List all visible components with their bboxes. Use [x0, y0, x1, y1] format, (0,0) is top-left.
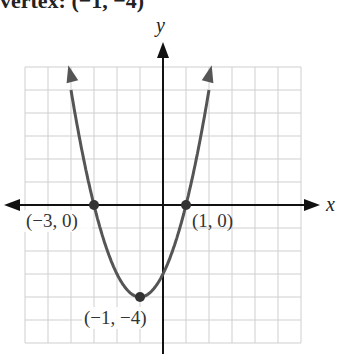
- label-right-intercept: (1, 0): [192, 210, 233, 232]
- point-vertex: [135, 292, 145, 302]
- y-axis: y: [154, 14, 169, 354]
- y-axis-label: y: [154, 14, 165, 37]
- x-axis-right-arrow-icon: [304, 199, 320, 211]
- x-axis-label: x: [325, 193, 335, 215]
- label-vertex: (−1, −4): [84, 307, 147, 329]
- x-axis-left-arrow-icon: [4, 199, 20, 211]
- parabola-graph: x y (−3, 0) (1, 0) (−1, −4): [0, 0, 339, 354]
- point-x-intercept-right: [181, 200, 191, 210]
- y-axis-up-arrow-icon: [157, 42, 169, 58]
- point-x-intercept-left: [89, 200, 99, 210]
- label-left-intercept: (−3, 0): [26, 210, 78, 232]
